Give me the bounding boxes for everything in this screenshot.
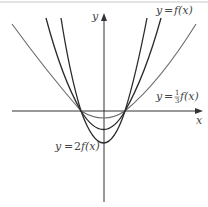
label-2f: y = 2 f(x): [54, 140, 100, 153]
label-third-f: y = 1 3 f(x): [155, 89, 199, 105]
label-f: y = f(x): [155, 4, 193, 17]
svg-text:y: y: [54, 140, 62, 153]
svg-text:y: y: [155, 90, 163, 103]
svg-text:=: =: [164, 90, 173, 103]
svg-text:=: =: [64, 140, 73, 153]
chart-svg: y x y = f(x) y = 1 3 f(x) y = 2 f(x): [0, 0, 208, 207]
y-axis-arrow-icon: [101, 13, 107, 21]
svg-text:=: =: [164, 4, 173, 17]
svg-text:f(x): f(x): [179, 90, 199, 103]
svg-text:f(x): f(x): [80, 140, 100, 153]
svg-text:y: y: [155, 4, 163, 17]
x-axis-label: x: [196, 114, 203, 127]
svg-text:f(x): f(x): [173, 4, 193, 17]
y-axis-label: y: [91, 10, 99, 23]
svg-text:2: 2: [74, 140, 81, 153]
svg-text:3: 3: [175, 97, 179, 105]
svg-text:1: 1: [175, 89, 179, 97]
figure-container: y x y = f(x) y = 1 3 f(x) y = 2 f(x): [0, 0, 208, 207]
